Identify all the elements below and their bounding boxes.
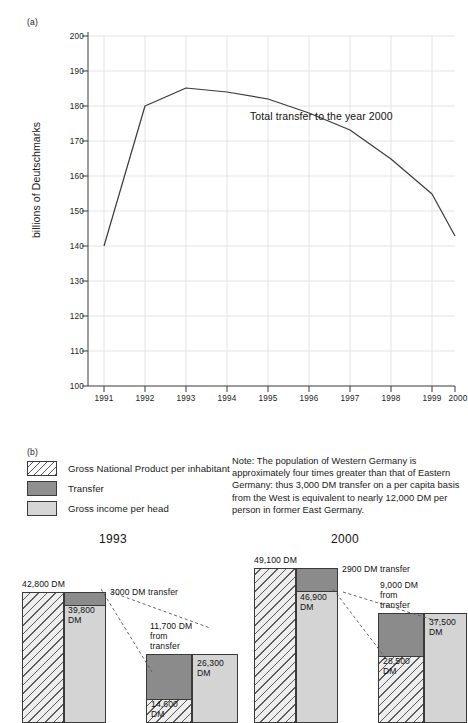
note-text: Note: The population of Western Germany … bbox=[232, 455, 460, 516]
y-axis-label: billions of Deutschmarks bbox=[30, 100, 42, 260]
y-tick-140: 140 bbox=[50, 242, 84, 251]
callout-2000-west-transfer: 2900 DM transfer bbox=[342, 565, 410, 575]
legend-label-transfer: Transfer bbox=[68, 483, 104, 494]
horizontal-gridlines bbox=[88, 36, 455, 351]
y-tick-180: 180 bbox=[50, 102, 84, 111]
legend-label-income: Gross income per head bbox=[68, 503, 169, 514]
line-chart-panel-a: billions of Deutschmarks bbox=[0, 26, 467, 412]
bar-label-2000-east-income: 37,500 DM bbox=[429, 618, 456, 637]
panel-b-tag: (b) bbox=[27, 447, 38, 457]
legend-item-transfer: Transfer bbox=[27, 479, 227, 497]
callout-line3: transfer bbox=[380, 601, 418, 611]
dark-gray-swatch-icon bbox=[27, 481, 57, 496]
segment-gnp-hatch bbox=[23, 593, 63, 722]
y-tick-130: 130 bbox=[50, 277, 84, 286]
x-tick-1998: 1998 bbox=[381, 394, 400, 403]
bar-label-1993-west-income: 39,800 DM bbox=[68, 606, 95, 625]
x-tick-1992: 1992 bbox=[135, 394, 154, 403]
legend-item-gnp: Gross National Product per inhabitant bbox=[27, 459, 227, 477]
bar-label-1993-east-income: 26,300 DM bbox=[197, 659, 224, 678]
x-axis-tick-labels: 1991 1992 1993 1994 1995 1996 1997 1998 … bbox=[88, 388, 458, 408]
bar-label-2000-east-gnp: 28,500 DM bbox=[383, 657, 410, 676]
series-annotation: Total transfer to the year 2000 bbox=[250, 110, 393, 122]
x-tick-1993: 1993 bbox=[176, 394, 195, 403]
legend-item-income: Gross income per head bbox=[27, 499, 227, 517]
y-tick-170: 170 bbox=[50, 137, 84, 146]
axis-spines bbox=[88, 32, 455, 386]
legend: Gross National Product per inhabitant Tr… bbox=[27, 459, 227, 519]
x-tick-1994: 1994 bbox=[217, 394, 236, 403]
segment-transfer bbox=[147, 655, 191, 699]
bar-label-line2: DM bbox=[429, 628, 456, 638]
callout-1993-west-transfer: 3000 DM transfer bbox=[110, 588, 178, 598]
y-tick-120: 120 bbox=[50, 312, 84, 321]
light-gray-swatch-icon bbox=[27, 501, 57, 516]
callout-1993-east-transfer: 11,700 DM from transfer bbox=[150, 622, 192, 651]
y-axis-tick-labels: 200 190 180 170 160 150 140 130 120 110 … bbox=[46, 26, 84, 386]
x-tick-1991: 1991 bbox=[94, 394, 113, 403]
callout-2000-east-transfer: 9,000 DM from transfer bbox=[380, 581, 418, 610]
segment-transfer bbox=[65, 593, 105, 605]
x-tick-1995: 1995 bbox=[258, 394, 277, 403]
bar-2000-west-gnp bbox=[254, 568, 296, 723]
group-title-1993: 1993 bbox=[99, 532, 127, 546]
x-tick-1996: 1996 bbox=[299, 394, 318, 403]
bar-label-2000-west-income: 46,900 DM bbox=[300, 593, 327, 612]
segment-transfer bbox=[379, 614, 423, 656]
y-tick-190: 190 bbox=[50, 67, 84, 76]
segment-gnp-hatch bbox=[255, 569, 295, 722]
bar-label-line2: DM bbox=[151, 710, 178, 720]
bar-label-line2: DM bbox=[383, 667, 410, 677]
legend-label-gnp: Gross National Product per inhabitant bbox=[68, 463, 230, 474]
bar-label-line2: DM bbox=[197, 669, 224, 679]
y-tick-200: 200 bbox=[50, 32, 84, 41]
y-tick-110: 110 bbox=[50, 347, 84, 356]
bar-label-2000-west-gnp: 49,100 DM bbox=[254, 555, 297, 565]
group-title-2000: 2000 bbox=[331, 532, 359, 546]
segment-transfer bbox=[297, 569, 337, 591]
callout-line3: transfer bbox=[150, 642, 192, 652]
bar-label-1993-west-gnp: 42,800 DM bbox=[22, 579, 65, 589]
hatch-swatch-icon bbox=[27, 461, 57, 476]
x-tick-2000: 2000 bbox=[448, 394, 467, 403]
y-tick-160: 160 bbox=[50, 172, 84, 181]
bar-label-line2: DM bbox=[300, 603, 327, 613]
y-tick-100: 100 bbox=[50, 382, 84, 391]
x-tick-1997: 1997 bbox=[340, 394, 359, 403]
x-tick-1999: 1999 bbox=[422, 394, 441, 403]
bar-label-line2: DM bbox=[68, 616, 95, 626]
bar-1993-west-gnp bbox=[22, 592, 64, 723]
bar-label-1993-east-gnp: 14,600 DM bbox=[151, 700, 178, 719]
y-tick-150: 150 bbox=[50, 207, 84, 216]
